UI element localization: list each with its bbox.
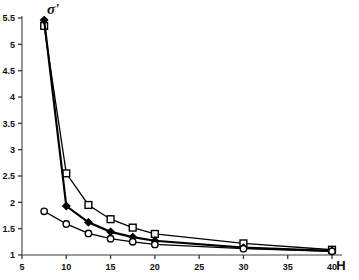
marker-open-circle <box>152 241 158 247</box>
y-axis-tick-label: 4.5 <box>2 66 15 76</box>
marker-open-circle <box>107 235 113 241</box>
x-axis-tick-label: 25 <box>194 262 204 272</box>
x-axis-tick-label: 15 <box>106 262 116 272</box>
y-axis-title: σ' <box>47 1 59 17</box>
chart-figure: 11.522.533.544.555.5 510152025303540 σ' … <box>0 0 359 280</box>
marker-open-square <box>151 231 158 238</box>
y-axis-tick-label: 4 <box>10 92 15 102</box>
marker-open-circle <box>329 248 335 254</box>
x-axis-tick-label: 35 <box>283 262 293 272</box>
marker-open-circle <box>240 245 246 251</box>
chart-plot-area: 11.522.533.544.555.5 510152025303540 σ' … <box>0 0 359 280</box>
chart-background <box>0 0 359 280</box>
marker-open-square <box>63 170 70 177</box>
x-axis-tick-label: 10 <box>61 262 71 272</box>
y-axis-tick-label: 2 <box>10 198 15 208</box>
marker-open-circle <box>85 230 91 236</box>
y-axis-tick-label: 3.5 <box>2 119 15 129</box>
marker-open-square <box>129 224 136 231</box>
y-axis-tick-label: 2.5 <box>2 171 15 181</box>
x-axis-tick-label: 30 <box>238 262 248 272</box>
marker-open-circle <box>63 221 69 227</box>
y-axis-tick-label: 5 <box>10 40 15 50</box>
y-axis-tick-label: 1 <box>10 250 15 260</box>
marker-open-square <box>107 216 114 223</box>
x-axis-tick-label: 20 <box>150 262 160 272</box>
marker-open-square <box>85 202 92 209</box>
y-axis-tick-label: 1.5 <box>2 224 15 234</box>
y-axis-tick-label: 3 <box>10 145 15 155</box>
x-axis-title: H <box>336 258 345 273</box>
marker-open-circle <box>41 208 47 214</box>
x-axis-tick-label: 5 <box>19 262 24 272</box>
y-axis-tick-label: 5.5 <box>2 13 15 23</box>
marker-open-circle <box>130 239 136 245</box>
